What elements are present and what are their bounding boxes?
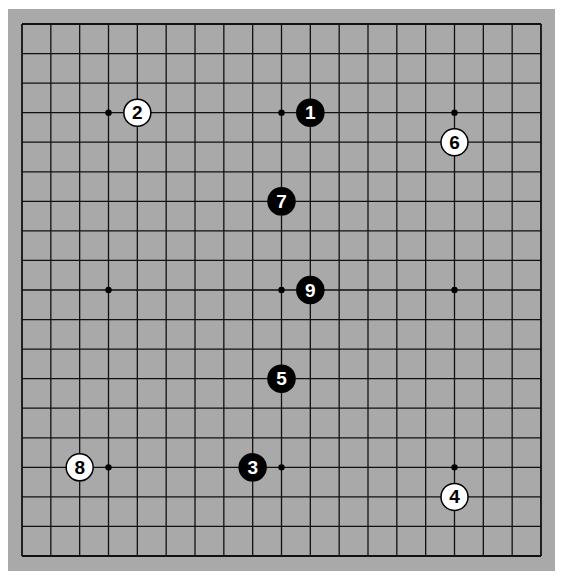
star-point-icon (451, 109, 457, 115)
stone-black-move-7: 7 (268, 188, 295, 215)
star-point-icon (105, 287, 111, 293)
star-point-icon (278, 109, 284, 115)
move-number: 5 (276, 368, 287, 389)
stone-white-move-4: 4 (441, 483, 468, 510)
move-number: 2 (132, 102, 143, 123)
stone-white-move-6: 6 (441, 129, 468, 156)
star-point-icon (105, 109, 111, 115)
star-point-icon (105, 464, 111, 470)
move-number: 1 (305, 102, 316, 123)
star-point-icon (278, 464, 284, 470)
stone-white-move-2: 2 (124, 99, 151, 126)
go-board-grid: 123456789 (0, 0, 566, 583)
move-number: 7 (276, 191, 287, 212)
stone-black-move-9: 9 (297, 277, 324, 304)
move-number: 6 (449, 132, 460, 153)
star-point-icon (278, 287, 284, 293)
stone-white-move-8: 8 (66, 454, 93, 481)
move-number: 3 (247, 457, 258, 478)
stone-black-move-1: 1 (297, 99, 324, 126)
star-point-icon (451, 464, 457, 470)
move-number: 4 (449, 486, 460, 507)
stone-black-move-5: 5 (268, 365, 295, 392)
move-number: 9 (305, 280, 316, 301)
stone-black-move-3: 3 (239, 454, 266, 481)
move-number: 8 (74, 457, 85, 478)
star-point-icon (451, 287, 457, 293)
